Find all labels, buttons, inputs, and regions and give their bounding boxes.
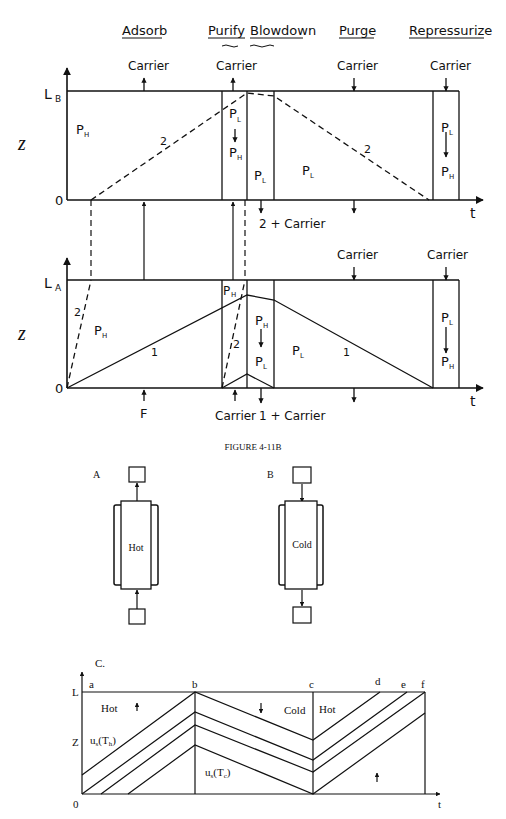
outlet-1-carrier: 1 + Carrier bbox=[259, 409, 325, 423]
feed-label: F bbox=[140, 406, 147, 421]
step-blowdown: Blowdown bbox=[250, 23, 316, 38]
svg-text:B: B bbox=[55, 94, 61, 104]
lb-label: L bbox=[44, 86, 52, 102]
svg-text:t: t bbox=[438, 798, 441, 810]
svg-text:P: P bbox=[255, 313, 263, 328]
svg-text:0: 0 bbox=[73, 798, 79, 810]
svg-text:L: L bbox=[262, 177, 266, 185]
svg-text:c: c bbox=[309, 678, 314, 690]
svg-text:d: d bbox=[375, 675, 381, 687]
svg-text:H: H bbox=[237, 154, 242, 162]
svg-text:H: H bbox=[84, 131, 89, 139]
z-axis-label: z bbox=[17, 132, 26, 154]
svg-text:2: 2 bbox=[364, 143, 371, 156]
svg-text:P: P bbox=[302, 163, 310, 178]
svg-text:e: e bbox=[401, 678, 406, 690]
figure-canvas: Adsorb Purify Blowdown Purge Repressuriz… bbox=[0, 0, 506, 819]
figure-caption: FIGURE 4-11B bbox=[225, 442, 282, 452]
svg-text:L: L bbox=[310, 172, 314, 180]
svg-text:L: L bbox=[72, 686, 79, 698]
velocity-hot-label: us(Th) bbox=[90, 734, 116, 748]
svg-text:P: P bbox=[229, 106, 237, 121]
panel-c-labels: C. L Z 0 t a b c d e f Hot Cold Hot us(T… bbox=[72, 657, 441, 810]
column-b-chart bbox=[67, 68, 483, 213]
svg-text:Carrier: Carrier bbox=[215, 409, 256, 423]
svg-text:L: L bbox=[237, 116, 241, 124]
svg-text:P: P bbox=[441, 310, 449, 325]
sketch-a-label: A bbox=[93, 469, 101, 480]
svg-text:A: A bbox=[55, 283, 62, 293]
front-1-line bbox=[67, 295, 433, 388]
svg-text:Carrier: Carrier bbox=[216, 59, 257, 73]
svg-text:1: 1 bbox=[151, 346, 158, 359]
svg-text:1: 1 bbox=[343, 346, 350, 359]
svg-text:H: H bbox=[449, 173, 454, 181]
panel-c-chart bbox=[82, 672, 440, 794]
svg-text:P: P bbox=[229, 145, 237, 160]
svg-text:Carrier: Carrier bbox=[337, 59, 378, 73]
svg-text:P: P bbox=[441, 354, 449, 369]
step-adsorb: Adsorb bbox=[122, 23, 167, 38]
svg-text:a: a bbox=[89, 678, 94, 690]
svg-text:H: H bbox=[102, 332, 107, 340]
svg-text:H: H bbox=[263, 322, 268, 330]
svg-text:t: t bbox=[470, 205, 476, 221]
svg-text:L: L bbox=[263, 363, 267, 371]
svg-text:2: 2 bbox=[74, 306, 81, 319]
svg-text:2: 2 bbox=[160, 135, 167, 148]
svg-text:Hot: Hot bbox=[319, 703, 336, 715]
step-headers: Adsorb Purify Blowdown Purge Repressuriz… bbox=[122, 23, 492, 47]
front-2-line bbox=[91, 93, 429, 200]
svg-text:b: b bbox=[192, 678, 198, 690]
svg-text:z: z bbox=[17, 322, 26, 344]
wavy-underline bbox=[222, 45, 274, 47]
svg-text:L: L bbox=[449, 129, 453, 137]
la-label: L bbox=[44, 275, 52, 291]
svg-text:2: 2 bbox=[233, 338, 240, 351]
svg-text:f: f bbox=[421, 678, 425, 690]
svg-text:P: P bbox=[441, 120, 449, 135]
svg-text:t: t bbox=[470, 393, 476, 409]
outlet-2-carrier: 2 + Carrier bbox=[259, 217, 325, 231]
sketch-a-text: Hot bbox=[129, 542, 144, 553]
velocity-cold-label: us(Tc) bbox=[205, 766, 231, 780]
step-purge: Purge bbox=[339, 23, 376, 38]
svg-text:L: L bbox=[300, 352, 304, 360]
svg-text:P: P bbox=[292, 343, 300, 358]
svg-text:P: P bbox=[76, 122, 84, 137]
svg-text:Hot: Hot bbox=[101, 702, 118, 714]
svg-text:C.: C. bbox=[95, 657, 105, 669]
svg-text:Carrier: Carrier bbox=[337, 248, 378, 262]
svg-text:Cold: Cold bbox=[284, 704, 306, 716]
svg-text:P: P bbox=[254, 168, 262, 183]
svg-text:H: H bbox=[231, 291, 236, 299]
step-repressurize: Repressurize bbox=[409, 23, 492, 38]
svg-text:L: L bbox=[449, 319, 453, 327]
svg-text:Carrier: Carrier bbox=[430, 59, 471, 73]
svg-text:H: H bbox=[449, 363, 454, 371]
svg-text:P: P bbox=[255, 354, 263, 369]
sketch-b-text: Cold bbox=[292, 539, 311, 550]
sketch-b-label: B bbox=[267, 469, 274, 480]
svg-text:P: P bbox=[223, 284, 230, 298]
svg-text:Z: Z bbox=[72, 736, 79, 748]
svg-text:Carrier: Carrier bbox=[128, 59, 169, 73]
column-a-chart bbox=[67, 258, 483, 403]
svg-text:P: P bbox=[441, 164, 449, 179]
svg-text:0: 0 bbox=[55, 193, 63, 208]
step-purify: Purify bbox=[208, 23, 245, 38]
svg-text:P: P bbox=[94, 323, 102, 338]
inter-column-connectors bbox=[91, 200, 245, 280]
svg-text:Carrier: Carrier bbox=[427, 248, 468, 262]
svg-text:0: 0 bbox=[55, 381, 63, 396]
